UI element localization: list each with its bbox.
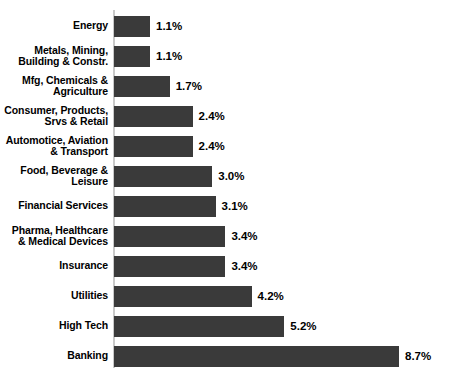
- bar-value-label: 5.2%: [290, 320, 316, 332]
- category-label: Insurance: [0, 260, 108, 272]
- bar-area: 1.7%: [114, 71, 455, 101]
- bar-row: Banking8.7%: [0, 341, 455, 371]
- bar: [114, 106, 193, 127]
- bar-row: Utilities4.2%: [0, 281, 455, 311]
- bar: [114, 46, 150, 67]
- bar: [114, 256, 225, 277]
- bar-row: Energy1.1%: [0, 11, 455, 41]
- bar-row: Mfg, Chemicals & Agriculture1.7%: [0, 71, 455, 101]
- bar-area: 1.1%: [114, 41, 455, 71]
- category-label: Food, Beverage & Leisure: [0, 165, 108, 188]
- bar-value-label: 3.4%: [231, 260, 257, 272]
- bar: [114, 136, 193, 157]
- bar: [114, 316, 284, 337]
- category-label: Metals, Mining, Building & Constr.: [0, 45, 108, 68]
- bar: [114, 16, 150, 37]
- bar-value-label: 1.1%: [156, 20, 182, 32]
- bar-value-label: 2.4%: [199, 110, 225, 122]
- bar: [114, 286, 252, 307]
- bar-area: 4.2%: [114, 281, 455, 311]
- bar-area: 3.4%: [114, 251, 455, 281]
- bar-chart: Energy1.1%Metals, Mining, Building & Con…: [0, 0, 455, 379]
- category-label: Financial Services: [0, 200, 108, 212]
- bar: [114, 166, 212, 187]
- bar-row: High Tech5.2%: [0, 311, 455, 341]
- bar-value-label: 8.7%: [405, 350, 431, 362]
- bar: [114, 196, 216, 217]
- category-label: Automotice, Aviation & Transport: [0, 135, 108, 158]
- bar-area: 1.1%: [114, 11, 455, 41]
- category-label: High Tech: [0, 320, 108, 332]
- bar-value-label: 1.1%: [156, 50, 182, 62]
- bar-rows: Energy1.1%Metals, Mining, Building & Con…: [0, 0, 455, 379]
- bar-value-label: 3.4%: [231, 230, 257, 242]
- bar-value-label: 2.4%: [199, 140, 225, 152]
- bar-area: 5.2%: [114, 311, 455, 341]
- category-label: Consumer, Products, Srvs & Retail: [0, 105, 108, 128]
- category-label: Energy: [0, 20, 108, 32]
- bar-area: 8.7%: [114, 341, 455, 371]
- bar-value-label: 3.1%: [222, 200, 248, 212]
- bar-area: 3.4%: [114, 221, 455, 251]
- category-label: Pharma, Healthcare & Medical Devices: [0, 225, 108, 248]
- bar-area: 2.4%: [114, 101, 455, 131]
- bar-value-label: 1.7%: [176, 80, 202, 92]
- bar-value-label: 3.0%: [218, 170, 244, 182]
- bar: [114, 76, 170, 97]
- bar-area: 3.0%: [114, 161, 455, 191]
- bar: [114, 346, 399, 367]
- bar-value-label: 4.2%: [258, 290, 284, 302]
- category-label: Banking: [0, 350, 108, 362]
- bar-row: Metals, Mining, Building & Constr.1.1%: [0, 41, 455, 71]
- category-label: Mfg, Chemicals & Agriculture: [0, 75, 108, 98]
- bar: [114, 226, 225, 247]
- bar-row: Pharma, Healthcare & Medical Devices3.4%: [0, 221, 455, 251]
- bar-row: Food, Beverage & Leisure3.0%: [0, 161, 455, 191]
- category-label: Utilities: [0, 290, 108, 302]
- bar-row: Automotice, Aviation & Transport2.4%: [0, 131, 455, 161]
- bar-area: 2.4%: [114, 131, 455, 161]
- bar-row: Financial Services3.1%: [0, 191, 455, 221]
- bar-row: Insurance3.4%: [0, 251, 455, 281]
- bar-row: Consumer, Products, Srvs & Retail2.4%: [0, 101, 455, 131]
- bar-area: 3.1%: [114, 191, 455, 221]
